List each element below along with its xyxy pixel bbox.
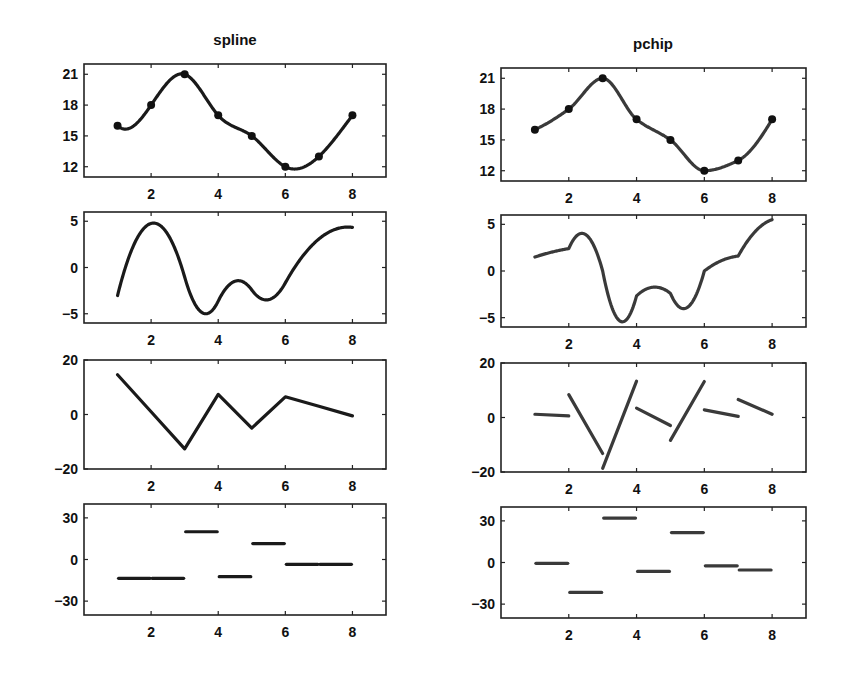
y-tick-label: 5 [487,216,495,232]
x-tick-label: 4 [214,186,222,202]
x-tick-label: 4 [633,336,641,352]
x-tick-label: 8 [768,481,776,497]
y-tick-label: 15 [479,132,495,148]
x-tick-label: 6 [281,332,289,348]
pchip-title: pchip [633,35,673,52]
pchip-panel-2: 2468−505 [479,215,806,352]
second-derivative-segment [603,381,637,468]
y-tick-label: 0 [70,407,78,423]
x-tick-label: 6 [700,190,708,206]
second-derivative-segment [738,400,772,415]
data-point-marker [248,132,256,140]
axes-box [84,504,386,615]
second-derivative-segment [535,414,569,416]
x-tick-label: 4 [214,332,222,348]
second-derivative-segment [704,410,738,417]
y-tick-label: 0 [487,555,495,571]
second-derivative-segment [670,382,704,441]
data-point-marker [599,74,607,82]
x-tick-label: 2 [147,624,155,640]
x-tick-label: 2 [147,186,155,202]
x-tick-label: 2 [565,627,573,643]
y-tick-label: 0 [70,260,78,276]
y-tick-label: 12 [479,163,495,179]
y-tick-label: 21 [479,70,495,86]
data-point-marker [531,126,539,134]
y-tick-label: −20 [471,464,495,480]
data-point-marker [214,111,222,119]
x-tick-label: 2 [147,478,155,494]
x-tick-label: 2 [565,336,573,352]
y-tick-label: 20 [479,355,495,371]
x-tick-label: 2 [147,332,155,348]
y-tick-label: 12 [62,159,78,175]
data-point-marker [768,115,776,123]
y-tick-label: −30 [471,596,495,612]
x-tick-label: 8 [349,332,357,348]
data-point-marker [700,167,708,175]
y-tick-label: 5 [70,213,78,229]
x-tick-label: 8 [768,627,776,643]
y-tick-label: 18 [62,97,78,113]
x-tick-label: 8 [349,186,357,202]
spline-panel-3: 2468−20020 [54,352,386,494]
y-tick-label: −5 [62,306,78,322]
x-tick-label: 6 [700,336,708,352]
spline-column: spline 2468121518212468−5052468−20020246… [54,31,386,640]
spline-panel-2: 2468−505 [62,212,386,348]
x-tick-label: 8 [768,336,776,352]
y-tick-label: 15 [62,128,78,144]
y-tick-label: 30 [62,510,78,526]
data-point-marker [348,111,356,119]
y-tick-label: 30 [479,513,495,529]
x-tick-label: 2 [565,190,573,206]
spline-title: spline [213,31,256,48]
x-tick-label: 6 [281,478,289,494]
pchip-panel-1: 246812151821 [479,68,806,206]
figure: spline 2468121518212468−5052468−20020246… [0,0,847,676]
axes-box [501,215,806,327]
second-derivative-curve [118,375,353,449]
pchip-column: pchip 2468121518212468−5052468−200202468… [471,35,806,643]
x-tick-label: 4 [214,624,222,640]
y-tick-label: 18 [479,101,495,117]
x-tick-label: 6 [700,627,708,643]
y-tick-label: 0 [487,410,495,426]
data-point-marker [315,152,323,160]
second-derivative-segment [569,395,603,454]
y-tick-label: −20 [54,461,78,477]
x-tick-label: 6 [281,624,289,640]
x-tick-label: 8 [349,624,357,640]
y-tick-label: −30 [54,593,78,609]
y-tick-label: 0 [70,552,78,568]
data-point-marker [114,122,122,130]
y-tick-label: 20 [62,352,78,368]
x-tick-label: 8 [349,478,357,494]
spline-panel-1: 246812151821 [62,64,386,202]
x-tick-label: 4 [633,190,641,206]
x-tick-label: 4 [214,478,222,494]
first-derivative-curve [535,220,772,322]
y-tick-label: −5 [479,310,495,326]
data-point-marker [734,156,742,164]
data-point-marker [565,105,573,113]
pchip-panel-4: 2468−30030 [471,507,806,643]
y-tick-label: 0 [487,263,495,279]
x-tick-label: 6 [700,481,708,497]
data-point-marker [633,115,641,123]
data-point-marker [666,136,674,144]
second-derivative-segment [637,408,671,425]
data-point-marker [281,163,289,171]
data-point-marker [147,101,155,109]
data-point-marker [181,70,189,78]
axes-box [84,360,386,469]
x-tick-label: 6 [281,186,289,202]
pchip-panel-3: 2468−20020 [471,355,806,497]
y-tick-label: 21 [62,66,78,82]
axes-box [84,64,386,177]
x-tick-label: 4 [633,481,641,497]
x-tick-label: 4 [633,627,641,643]
x-tick-label: 8 [768,190,776,206]
first-derivative-curve [118,223,353,314]
spline-panel-4: 2468−30030 [54,504,386,640]
